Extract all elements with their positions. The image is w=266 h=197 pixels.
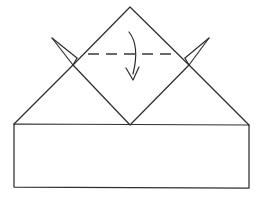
origami-figure: [0, 0, 266, 197]
origami-diagram-canvas: [0, 0, 266, 197]
